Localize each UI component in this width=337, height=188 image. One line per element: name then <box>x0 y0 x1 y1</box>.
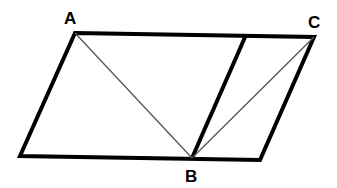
outer-parallelogram <box>20 33 314 160</box>
label-b: B <box>185 167 197 186</box>
geometry-diagram: A C B <box>0 0 337 188</box>
label-c: C <box>308 13 320 32</box>
dividing-segment <box>192 35 246 158</box>
diagonal-a-b <box>75 33 192 158</box>
diagonal-c-b <box>192 37 314 158</box>
label-a: A <box>64 9 76 28</box>
